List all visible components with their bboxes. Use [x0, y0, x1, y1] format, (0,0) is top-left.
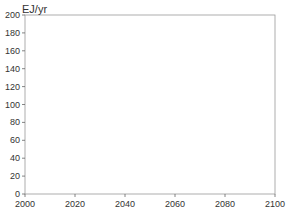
x-tick-label: 2040: [115, 199, 135, 209]
y-tick-label: 120: [5, 82, 20, 92]
y-tick-label: 0: [15, 189, 20, 199]
axes: 0204060801001201401601802002000202020402…: [5, 10, 285, 209]
y-tick-label: 80: [10, 117, 20, 127]
y-tick-label: 200: [5, 10, 20, 20]
x-tick-label: 2080: [215, 199, 235, 209]
x-tick-label: 2060: [165, 199, 185, 209]
y-axis-label: EJ/yr: [22, 3, 47, 15]
y-tick-label: 160: [5, 46, 20, 56]
y-tick-label: 100: [5, 100, 20, 110]
y-tick-label: 180: [5, 28, 20, 38]
line-chart: 0204060801001201401601802002000202020402…: [0, 0, 286, 213]
y-tick-label: 40: [10, 153, 20, 163]
x-tick-label: 2100: [265, 199, 285, 209]
y-tick-label: 20: [10, 171, 20, 181]
plot-frame: [25, 15, 275, 194]
x-tick-label: 2000: [15, 199, 35, 209]
y-tick-label: 60: [10, 135, 20, 145]
y-tick-label: 140: [5, 64, 20, 74]
x-tick-label: 2020: [65, 199, 85, 209]
